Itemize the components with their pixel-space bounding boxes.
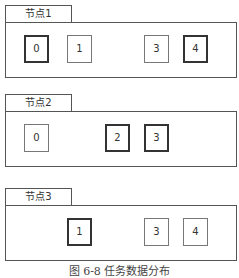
node-3-panel: 1 3 4	[5, 205, 237, 261]
data-block-0: 0	[24, 124, 49, 152]
node-2-tab: 节点2	[5, 94, 72, 111]
data-block-2: 2	[105, 124, 130, 152]
node-2-panel: 0 2 3	[5, 111, 237, 167]
data-block-4: 4	[183, 218, 208, 246]
data-block-4: 4	[183, 35, 208, 63]
figure-caption: 图 6-8 任务数据分布	[0, 262, 239, 278]
node-1-tab: 节点1	[5, 5, 72, 22]
node-1-panel: 0 1 3 4	[5, 22, 237, 78]
data-block-1: 1	[67, 35, 92, 63]
data-block-3: 3	[144, 218, 169, 246]
data-block-1: 1	[67, 218, 92, 246]
data-block-3: 3	[144, 124, 169, 152]
node-3-tab: 节点3	[5, 188, 72, 205]
data-block-0: 0	[24, 35, 49, 63]
data-block-3: 3	[144, 35, 169, 63]
